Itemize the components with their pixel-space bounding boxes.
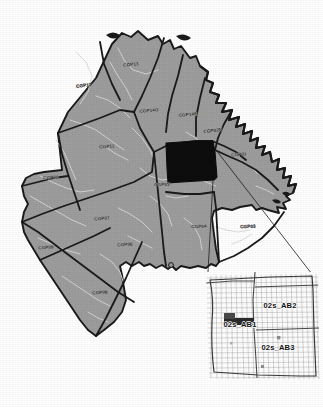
district-label-cgp09: CGP09 (38, 245, 54, 251)
district-label-cgp10: CGP10 (43, 175, 59, 181)
inset-highlight-block (224, 313, 235, 319)
district-label-cgp07: CGP07 (94, 216, 110, 222)
district-label-cgp01: CGP01 (231, 152, 247, 158)
inset-label-02s_ab3: 02s_AB3 (261, 343, 294, 352)
inset-marker-a (277, 336, 280, 339)
inset-label-02s_ab2: 02s_AB2 (263, 301, 296, 310)
inset-marker-c (230, 342, 232, 344)
district-label-cgp06: CGP06 (117, 242, 133, 248)
highlighted-district (166, 141, 217, 183)
district-label-cgp03: CGP03 (240, 224, 256, 230)
zoom-inset-group: 02s_AB102s_AB202s_AB3 (206, 272, 320, 382)
district-label-cgp04: CGP04 (191, 224, 207, 230)
district-label-cgp05: CGP05 (154, 182, 170, 188)
inset-marker-b (261, 365, 264, 368)
inset-label-02s_ab1: 02s_AB1 (223, 320, 257, 329)
figure-root: CGP13CGP12CGP14OCGP14ECGP02NCGP01CGP11CG… (0, 0, 323, 407)
district-label-cgp08: CGP08 (92, 290, 108, 296)
district-map-figure: CGP13CGP12CGP14OCGP14ECGP02NCGP01CGP11CG… (0, 0, 323, 407)
